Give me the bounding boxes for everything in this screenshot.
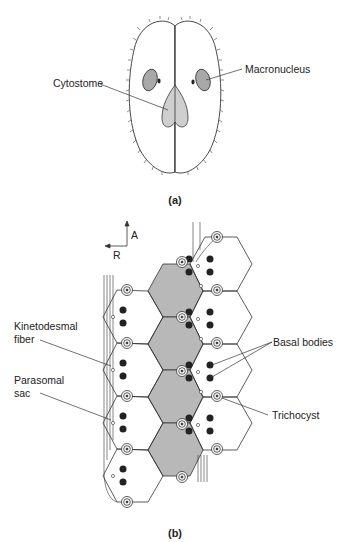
right-micronucleus [191, 80, 194, 85]
kinetodesmal-label-line2: fiber [14, 333, 35, 345]
panel-b: A R [14, 221, 333, 539]
kinetodesmal-label-line1: Kinetodesmal [14, 320, 78, 332]
trichocyst-label: Trichocyst [272, 409, 320, 421]
cytostome-label: Cytostome [53, 77, 103, 89]
basal-bodies-label: Basal bodies [273, 336, 333, 348]
panel-b-caption: (b) [168, 527, 182, 539]
parasomal-label-line2: sac [14, 387, 30, 399]
parasomal-label-line1: Parasomal [14, 374, 64, 386]
orientation-axes [105, 221, 129, 248]
paramecium-diagram: Cytostome Macronucleus (a) A R [0, 0, 343, 542]
panel-a-caption: (a) [168, 194, 182, 206]
right-label: R [113, 249, 121, 261]
anterior-label: A [131, 229, 138, 241]
shaded-cells [148, 264, 203, 476]
macronucleus-label: Macronucleus [245, 63, 310, 75]
panel-a: Cytostome Macronucleus (a) [53, 16, 310, 206]
left-micronucleus [157, 79, 160, 84]
